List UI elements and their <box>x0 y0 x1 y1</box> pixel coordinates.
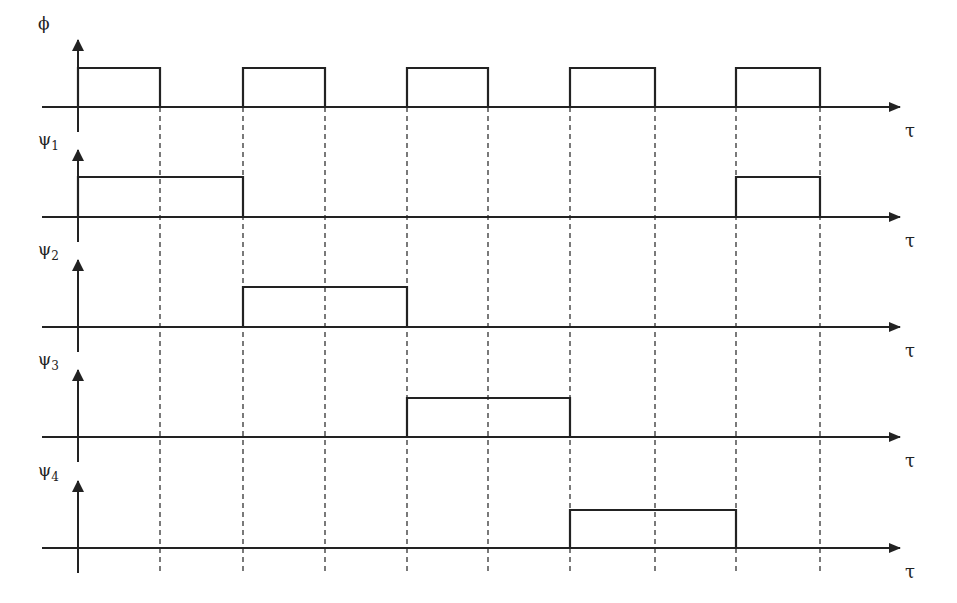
tau-axis-label: τ <box>905 450 915 471</box>
waveform <box>78 177 820 217</box>
signal-label: ψ3 <box>38 349 59 373</box>
signal-phi: ϕτ <box>38 13 915 141</box>
signal-label: ψ2 <box>38 239 59 263</box>
waveform <box>570 510 736 548</box>
signal-psi1: ψ1τ <box>38 129 915 251</box>
signal-label: ψ4 <box>38 460 59 484</box>
signal-traces: ϕτψ1τψ2τψ3τψ4τ <box>38 13 915 582</box>
signal-psi4: ψ4τ <box>38 460 915 582</box>
tau-axis-label: τ <box>905 340 915 361</box>
tau-axis-label: τ <box>905 230 915 251</box>
signal-psi2: ψ2τ <box>38 239 915 361</box>
tau-axis-label: τ <box>905 120 915 141</box>
tau-axis-label: τ <box>905 561 915 582</box>
signal-psi3: ψ3τ <box>38 349 915 471</box>
timing-diagram: ϕτψ1τψ2τψ3τψ4τ <box>0 0 957 603</box>
signal-label: ψ1 <box>38 129 59 153</box>
dashed-gridlines <box>160 107 820 573</box>
signal-label: ϕ <box>38 13 50 33</box>
waveform <box>78 68 820 107</box>
